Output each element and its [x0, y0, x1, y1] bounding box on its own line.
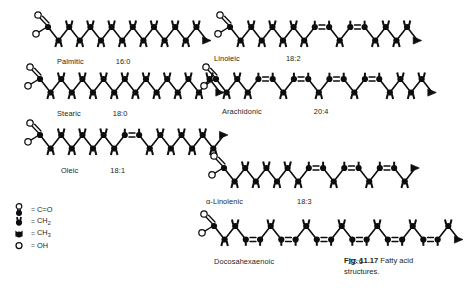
molecule-label-linoleic: Linoleic18:2	[214, 54, 301, 63]
legend-row-ch3: =CH3	[13, 228, 52, 239]
figure-caption: Fig. 11.17 Fatty acid structures.	[344, 256, 440, 277]
legend-equals: =	[29, 206, 37, 213]
molecule-ratio-alpha-linolenic: 18:3	[297, 197, 312, 206]
legend-label: OH	[37, 241, 48, 250]
molecule-ratio-oleic: 18:1	[110, 166, 125, 175]
molecule-name-alpha-linolenic: α-Linolenic	[206, 197, 243, 206]
legend-label: CH2	[37, 216, 51, 226]
carbonyl-symbol	[13, 204, 29, 215]
molecule-name-docosahexaenoic: Docosahexaenoic	[214, 257, 274, 266]
legend-equals: =	[29, 230, 37, 237]
molecule-ratio-linoleic: 18:2	[286, 54, 301, 63]
molecule-label-oleic: Oleic18:1	[61, 166, 125, 175]
molecule-name-stearic: Stearic	[57, 109, 81, 118]
legend-label: C=O	[37, 205, 52, 214]
molecule-name-linoleic: Linoleic	[214, 54, 240, 63]
legend-row-oh: =OH	[13, 240, 52, 251]
legend-row-ch2: =CH2	[13, 216, 52, 227]
molecule-name-arachidonic: Arachidonic	[222, 107, 262, 116]
legend-equals: =	[29, 242, 37, 249]
legend-row-c-o: =C=O	[13, 204, 52, 215]
molecule-ratio-stearic: 18:0	[113, 109, 128, 118]
molecule-ratio-palmitic: 16:0	[116, 57, 131, 66]
molecule-label-stearic: Stearic18:0	[57, 109, 128, 118]
ch3-symbol	[13, 228, 29, 239]
molecule-label-palmitic: Palmitic16:0	[57, 57, 130, 66]
oh-symbol	[13, 240, 29, 251]
molecule-name-oleic: Oleic	[61, 166, 78, 175]
oh-symbol	[13, 239, 29, 252]
ch2-symbol	[13, 216, 29, 227]
caption-id: Fig. 11.17	[344, 256, 378, 265]
molecule-label-alpha-linolenic: α-Linolenic18:3	[206, 197, 312, 206]
molecule-ratio-arachidonic: 20:4	[314, 107, 329, 116]
symbol-legend: =C=O=CH2=CH3=OH	[13, 204, 52, 252]
legend-label: CH3	[37, 228, 51, 238]
legend-equals: =	[29, 218, 37, 225]
molecule-name-palmitic: Palmitic	[57, 57, 84, 66]
molecule-label-arachidonic: Arachidonic20:4	[222, 107, 329, 116]
molecule-label-docosahexaenoic: Docosahexaenoic22:6	[214, 257, 363, 266]
